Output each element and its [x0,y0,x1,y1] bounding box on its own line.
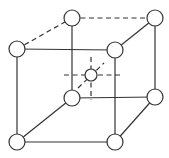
edge-left-top-depth [17,18,72,49]
atom-front-bottom-left [9,134,25,150]
atom-back-bottom-right [147,89,163,105]
atom-front-bottom-right [107,134,123,150]
atom-front-top-left [9,41,25,57]
atom-center [85,69,97,81]
edge-right-bottom-depth [115,97,155,142]
edge-left-bottom-depth [17,98,72,142]
bcc-lattice-diagram [0,0,169,158]
edge-back-bottom [72,97,155,98]
atom-back-top-left [64,10,80,26]
atom-back-bottom-left [64,90,80,106]
atom-front-top-right [107,42,123,58]
edge-front-top [17,49,115,50]
atom-back-top-right [147,10,163,26]
